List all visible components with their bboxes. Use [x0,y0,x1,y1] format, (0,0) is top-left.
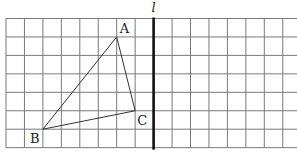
grid-diagram: lABC [0,0,297,160]
diagram-container: lABC [0,0,297,160]
triangle-abc [43,37,135,129]
point-labels: lABC [30,0,156,146]
triangle-outline [43,37,135,129]
line-l-label: l [152,0,156,15]
point-label-b: B [30,131,40,146]
point-label-c: C [137,113,147,128]
point-label-a: A [119,21,130,36]
